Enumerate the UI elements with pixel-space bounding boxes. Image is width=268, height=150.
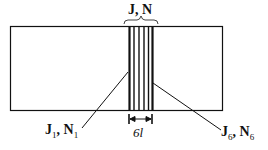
top-label: J, N: [128, 3, 152, 17]
width-variable: l: [140, 125, 144, 140]
label-n-subscript: 1: [74, 130, 79, 140]
top-brace: [124, 16, 158, 24]
width-label: 6l: [133, 126, 143, 139]
label-j: J: [45, 122, 52, 137]
right-layer-label: J6, N6: [221, 125, 254, 142]
left-leader-line: [82, 72, 128, 128]
label-n: N: [64, 122, 74, 137]
width-dimension: [129, 114, 152, 124]
label-n: N: [240, 124, 250, 139]
right-leader-line: [153, 83, 221, 130]
left-layer-label: J1, N1: [45, 123, 78, 140]
label-j: J: [221, 124, 228, 139]
label-j-subscript: 1: [52, 130, 57, 140]
label-j-subscript: 6: [228, 132, 233, 142]
layer-stripes: [130, 27, 153, 111]
sample-rectangle: [11, 27, 223, 111]
label-n-subscript: 6: [250, 132, 255, 142]
